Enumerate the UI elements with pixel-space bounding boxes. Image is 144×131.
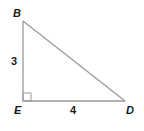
vertex-label-e: E [14,104,22,116]
vertex-label-b: B [13,7,21,19]
triangle-bed [23,21,125,101]
right-angle-marker [23,93,31,101]
side-length-be: 3 [11,55,17,67]
side-bd [23,21,125,101]
triangle-diagram: B E D 3 4 [0,0,144,131]
vertex-label-d: D [126,104,134,116]
side-length-ed: 4 [70,104,77,116]
